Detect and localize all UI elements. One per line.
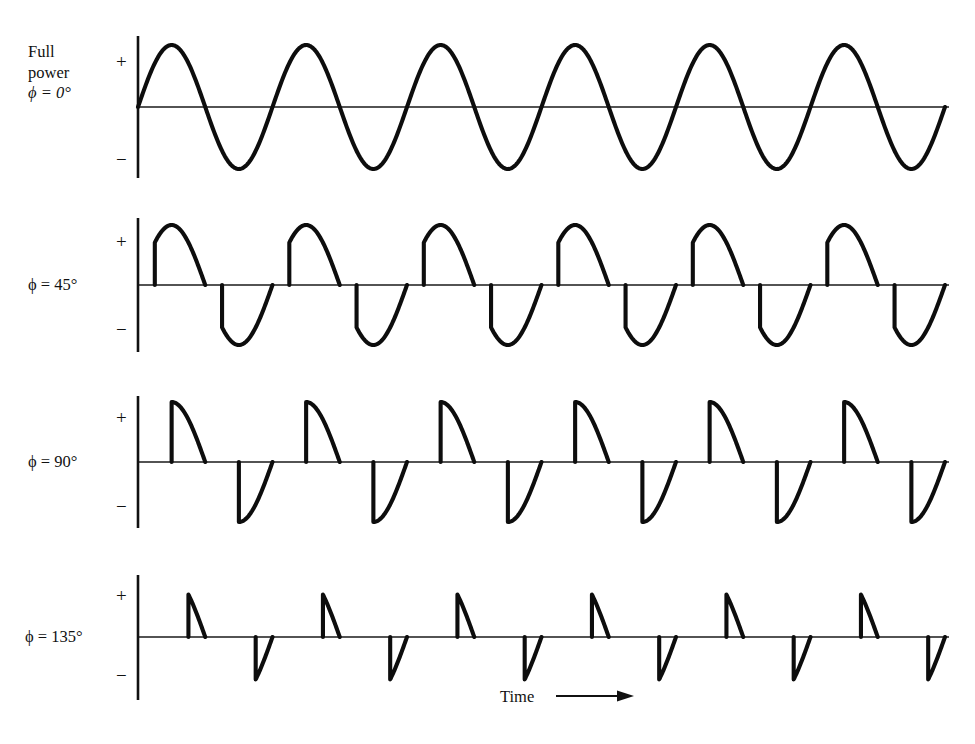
phase-label-135: ϕ = 135° (25, 627, 83, 648)
time-arrow (556, 691, 634, 702)
plus-sign-row-1: + (116, 52, 127, 71)
phase-label-45: ϕ = 45° (28, 275, 77, 296)
plus-sign-row-3: + (116, 408, 127, 427)
phase-control-waveform-figure: Full power ϕ = 0° ϕ = 45° ϕ = 90° ϕ = 13… (0, 0, 975, 744)
plus-sign-row-4: + (116, 586, 127, 605)
plus-sign-row-2: + (116, 232, 127, 251)
waveform-plot (0, 0, 975, 744)
row-label-phase-135: ϕ = 135° (25, 627, 83, 648)
row-label-full-power: Full power ϕ = 0° (28, 42, 71, 104)
waveform-row-phase-135 (138, 575, 949, 700)
minus-sign-row-3: − (116, 497, 127, 516)
right-arrow-icon (617, 691, 634, 702)
time-axis-label: Time (500, 687, 534, 707)
full-power-line1: Full (28, 42, 71, 63)
minus-sign-row-2: − (116, 320, 127, 339)
phase-label-90: ϕ = 90° (28, 452, 77, 473)
full-power-line2: power (28, 63, 71, 84)
minus-sign-row-1: − (116, 150, 127, 169)
waveform-row-full-power (138, 36, 949, 178)
waveform-row-phase-45 (138, 218, 949, 352)
minus-sign-row-4: − (116, 666, 127, 685)
row-label-phase-45: ϕ = 45° (28, 275, 77, 296)
row-label-phase-90: ϕ = 90° (28, 452, 77, 473)
waveform-row-phase-90 (138, 396, 949, 528)
phase-label-0: ϕ = 0° (28, 83, 71, 104)
